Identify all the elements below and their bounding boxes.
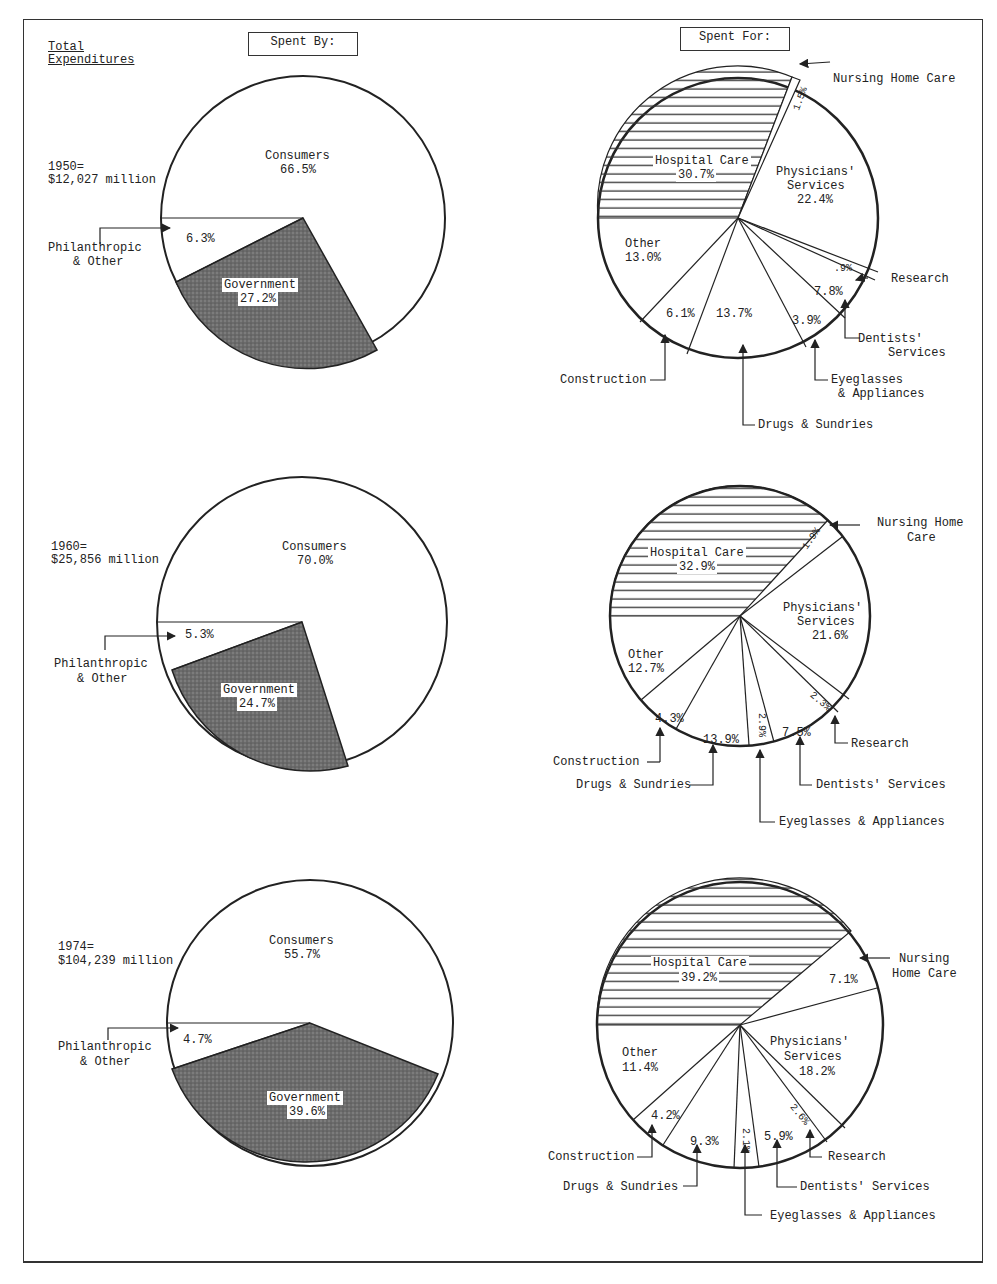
construction-pct: 4.2% <box>651 1109 680 1123</box>
eyeglasses-label: Eyeglasses & Appliances <box>779 815 945 829</box>
hospital-label: Hospital Care <box>648 546 746 560</box>
government-label: Government <box>222 278 298 292</box>
research-label: Research <box>851 737 909 751</box>
year-1974: 1974= <box>58 940 94 954</box>
dentists-label: Dentists' Services <box>800 1180 930 1194</box>
physicians-label-2: Services <box>784 1050 842 1064</box>
government-pct: 24.7% <box>237 697 277 711</box>
other-pct: 11.4% <box>622 1061 658 1075</box>
philanthropic-label-2: & Other <box>77 672 127 686</box>
physicians-label-2: Services <box>797 615 855 629</box>
consumers-label: Consumers <box>265 149 330 163</box>
philanthropic-label-2: & Other <box>80 1055 130 1069</box>
other-label: Other <box>625 237 661 251</box>
nursing-label-2: Care <box>907 531 936 545</box>
philanthropic-label: Philanthropic <box>48 241 142 255</box>
government-label: Government <box>267 1091 343 1105</box>
drugs-label: Drugs & Sundries <box>758 418 873 432</box>
eyeglasses-label-2: & Appliances <box>838 387 924 401</box>
pie-1960-spent-by <box>105 477 447 771</box>
dentists-pct: 7.8% <box>814 285 843 299</box>
construction-label: Construction <box>553 755 639 769</box>
eyeglasses-pct: 2.9% <box>754 713 768 737</box>
nursing-label: Nursing Home Care <box>833 72 955 86</box>
construction-label: Construction <box>560 373 646 387</box>
eyeglasses-label: Eyeglasses & Appliances <box>770 1209 936 1223</box>
government-pct: 39.6% <box>287 1105 327 1119</box>
physicians-label: Physicians' <box>770 1035 849 1049</box>
other-label: Other <box>622 1046 658 1060</box>
total-1950: $12,027 million <box>48 173 156 187</box>
hospital-pct: 32.9% <box>677 560 717 574</box>
total-1960: $25,856 million <box>51 553 159 567</box>
government-pct: 27.2% <box>238 292 278 306</box>
total-1974: $104,239 million <box>58 954 173 968</box>
consumers-pct: 66.5% <box>280 163 316 177</box>
hospital-label: Hospital Care <box>653 154 751 168</box>
eyeglasses-pct: 3.9% <box>792 314 821 328</box>
drugs-pct: 9.3% <box>690 1135 719 1149</box>
nursing-label: Nursing <box>899 952 949 966</box>
physicians-pct: 18.2% <box>799 1065 835 1079</box>
nursing-label-2: Home Care <box>892 967 957 981</box>
hospital-label: Hospital Care <box>651 956 749 970</box>
nursing-pct: 7.1% <box>829 973 858 987</box>
eyeglasses-pct: 2.1% <box>738 1128 752 1152</box>
consumers-label: Consumers <box>282 540 347 554</box>
other-pct: 12.7% <box>628 662 664 676</box>
construction-pct: 4.3% <box>655 712 684 726</box>
drugs-label: Drugs & Sundries <box>576 778 691 792</box>
physicians-pct: 21.6% <box>812 629 848 643</box>
philanthropic-pct: 4.7% <box>183 1033 212 1047</box>
pie-1974-spent-by <box>108 880 453 1166</box>
eyeglasses-label: Eyeglasses <box>831 373 903 387</box>
dentists-label: Dentists' <box>858 332 923 346</box>
philanthropic-label-2: & Other <box>73 255 123 269</box>
pie-1950-spent-by <box>100 76 445 369</box>
other-label: Other <box>628 648 664 662</box>
consumers-pct: 55.7% <box>284 948 320 962</box>
drugs-pct: 13.9% <box>703 733 739 747</box>
physicians-pct: 22.4% <box>797 193 833 207</box>
dentists-pct: 5.9% <box>764 1130 793 1144</box>
consumers-label: Consumers <box>269 934 334 948</box>
philanthropic-pct: 6.3% <box>186 232 215 246</box>
physicians-label: Physicians' <box>783 601 862 615</box>
philanthropic-label: Philanthropic <box>54 657 148 671</box>
year-1960: 1960= <box>51 540 87 554</box>
consumers-pct: 70.0% <box>297 554 333 568</box>
research-pct: .9% <box>834 262 852 276</box>
hospital-pct: 39.2% <box>679 971 719 985</box>
other-pct: 13.0% <box>625 251 661 265</box>
hospital-pct: 30.7% <box>676 168 716 182</box>
construction-label: Construction <box>548 1150 634 1164</box>
research-label: Research <box>891 272 949 286</box>
dentists-label-2: Services <box>888 346 946 360</box>
dentists-label: Dentists' Services <box>816 778 946 792</box>
physicians-label: Physicians' <box>776 165 855 179</box>
government-label: Government <box>221 683 297 697</box>
drugs-pct: 13.7% <box>716 307 752 321</box>
dentists-pct: 7.5% <box>782 726 811 740</box>
drugs-label: Drugs & Sundries <box>563 1180 678 1194</box>
research-label: Research <box>828 1150 886 1164</box>
philanthropic-pct: 5.3% <box>185 628 214 642</box>
philanthropic-label: Philanthropic <box>58 1040 152 1054</box>
year-1950: 1950= <box>48 160 84 174</box>
construction-pct: 6.1% <box>666 307 695 321</box>
physicians-label-2: Services <box>787 179 845 193</box>
nursing-label: Nursing Home <box>877 516 963 530</box>
